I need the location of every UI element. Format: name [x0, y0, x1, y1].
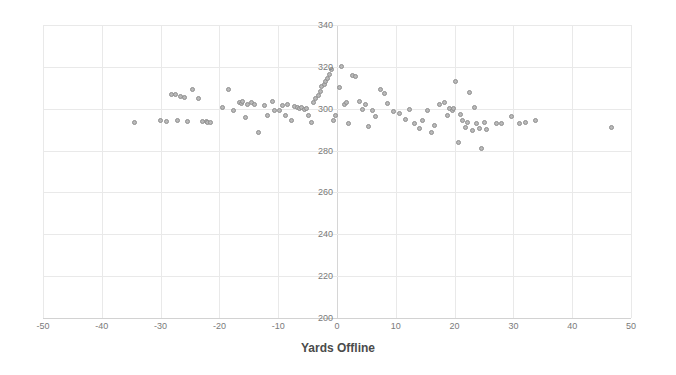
x-tick-label: -50 — [36, 321, 49, 331]
scatter-point — [175, 118, 180, 123]
scatter-point — [158, 118, 163, 123]
scatter-point — [283, 113, 288, 118]
gridline-vertical — [631, 25, 632, 318]
x-tick-label: 50 — [626, 321, 636, 331]
scatter-point — [231, 108, 236, 113]
scatter-point — [164, 119, 169, 124]
scatter-point — [208, 120, 213, 125]
gridline-horizontal — [43, 151, 631, 152]
scatter-point — [357, 99, 362, 104]
y-tick-label: 280 — [307, 146, 333, 156]
x-tick-label: 10 — [391, 321, 401, 331]
scatter-point — [289, 118, 294, 123]
gridline-horizontal — [43, 109, 631, 110]
scatter-point — [339, 64, 344, 69]
scatter-point — [456, 140, 461, 145]
scatter-point — [346, 121, 351, 126]
scatter-point — [482, 120, 487, 125]
scatter-point — [391, 109, 396, 114]
x-axis-line — [43, 318, 631, 319]
scatter-point — [373, 114, 378, 119]
gridline-horizontal — [43, 67, 631, 68]
scatter-point — [132, 120, 137, 125]
scatter-point — [173, 92, 178, 97]
x-tick-label: 30 — [508, 321, 518, 331]
scatter-point — [243, 115, 248, 120]
scatter-point — [265, 113, 270, 118]
scatter-point — [472, 105, 477, 110]
scatter-point — [412, 121, 417, 126]
gridline-vertical — [161, 25, 162, 318]
scatter-point — [182, 95, 187, 100]
scatter-point — [285, 102, 290, 107]
scatter-point — [463, 125, 468, 130]
scatter-point — [467, 90, 472, 95]
gridline-horizontal — [43, 234, 631, 235]
gridline-horizontal — [43, 25, 631, 26]
gridline-vertical — [102, 25, 103, 318]
gridline-vertical — [219, 25, 220, 318]
y-tick-label: 240 — [307, 229, 333, 239]
scatter-point — [533, 118, 538, 123]
scatter-point — [353, 74, 358, 79]
scatter-point — [477, 126, 482, 131]
scatter-point — [382, 91, 387, 96]
scatter-point — [344, 100, 349, 105]
scatter-point — [442, 100, 447, 105]
y-axis-line — [337, 25, 338, 318]
y-tick-label: 300 — [307, 104, 333, 114]
scatter-point — [277, 108, 282, 113]
gridline-vertical — [572, 25, 573, 318]
scatter-point — [262, 103, 267, 108]
y-tick-label: 340 — [307, 20, 333, 30]
scatter-point — [429, 130, 434, 135]
x-tick-label: -40 — [95, 321, 108, 331]
gridline-horizontal — [43, 192, 631, 193]
gridline-vertical — [43, 25, 44, 318]
scatter-point — [509, 114, 514, 119]
scatter-point — [363, 102, 368, 107]
gridline-vertical — [396, 25, 397, 318]
x-tick-label: 20 — [450, 321, 460, 331]
y-tick-label: 220 — [307, 271, 333, 281]
scatter-point — [360, 107, 365, 112]
scatter-chart-figure: -50-40-30-20-1001020304050 2002202402602… — [0, 0, 676, 375]
scatter-point — [270, 99, 275, 104]
scatter-point — [366, 124, 371, 129]
scatter-point — [185, 119, 190, 124]
y-tick-label: 260 — [307, 187, 333, 197]
scatter-point — [474, 121, 479, 126]
scatter-point — [385, 101, 390, 106]
scatter-point — [337, 85, 342, 90]
gridline-vertical — [455, 25, 456, 318]
scatter-point — [327, 72, 332, 77]
scatter-point — [445, 113, 450, 118]
x-tick-label: -10 — [272, 321, 285, 331]
scatter-point — [465, 120, 470, 125]
scatter-point — [190, 87, 195, 92]
gridline-vertical — [513, 25, 514, 318]
scatter-point — [609, 125, 614, 130]
scatter-point — [252, 102, 257, 107]
gridline-vertical — [278, 25, 279, 318]
scatter-point — [458, 112, 463, 117]
scatter-point — [407, 107, 412, 112]
scatter-point — [417, 126, 422, 131]
y-tick-label: 320 — [307, 62, 333, 72]
scatter-point — [484, 127, 489, 132]
scatter-point — [318, 89, 323, 94]
scatter-point — [256, 130, 261, 135]
scatter-point — [220, 105, 225, 110]
scatter-point — [453, 79, 458, 84]
scatter-point — [420, 118, 425, 123]
scatter-point — [403, 117, 408, 122]
scatter-point — [370, 108, 375, 113]
scatter-point — [523, 120, 528, 125]
scatter-point — [397, 111, 402, 116]
x-tick-label: 40 — [567, 321, 577, 331]
scatter-point — [517, 121, 522, 126]
gridline-horizontal — [43, 276, 631, 277]
scatter-point — [499, 121, 504, 126]
x-tick-label: -30 — [154, 321, 167, 331]
scatter-point — [425, 108, 430, 113]
